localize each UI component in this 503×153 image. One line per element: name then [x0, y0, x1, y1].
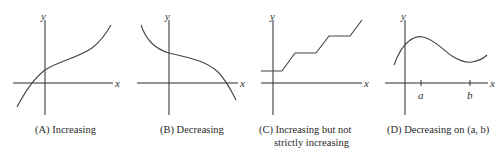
panel-d: y x a b (D) Decreasing on (a, b) [385, 10, 495, 136]
panel-d-tick-b-label: b [467, 89, 473, 101]
panel-b-x-label: x [239, 77, 245, 89]
panel-d-curve [394, 37, 487, 65]
panel-c-y-label: y [269, 10, 275, 22]
panel-c-caption-line1: (C) Increasing but not [259, 124, 352, 136]
panel-b-y-label: y [164, 10, 170, 22]
panel-c-step-curve [261, 20, 362, 71]
panel-c-caption-line2: strictly increasing [274, 137, 350, 148]
figure: y x (A) Increasing y x (B) Decreasing y … [0, 0, 503, 153]
panel-b: y x (B) Decreasing [137, 10, 245, 136]
panel-d-x-label: x [489, 77, 495, 89]
panel-c-x-label: x [363, 77, 369, 89]
panel-a-increasing-curve [17, 25, 111, 107]
panel-d-tick-a-label: a [418, 89, 424, 101]
panel-b-decreasing-curve [141, 25, 236, 100]
panel-d-caption: (D) Decreasing on (a, b) [387, 124, 490, 136]
panel-b-caption: (B) Decreasing [160, 124, 225, 136]
panel-a-caption: (A) Increasing [35, 124, 97, 136]
panel-d-y-label: y [400, 10, 406, 22]
panel-a-y-label: y [40, 10, 46, 22]
panel-c: y x (C) Increasing but not strictly incr… [259, 10, 369, 148]
panel-a: y x (A) Increasing [13, 10, 120, 136]
panel-a-x-label: x [114, 77, 120, 89]
